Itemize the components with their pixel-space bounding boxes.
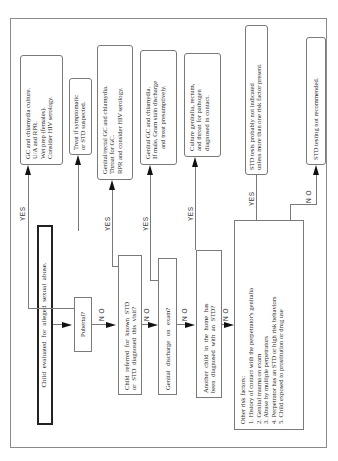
risk-factors-box: Other risk factors: 1. History of contac…	[234, 220, 304, 430]
question-text: Pubertal?	[79, 312, 86, 337]
connector	[195, 165, 196, 250]
arrow-icon	[192, 157, 198, 167]
no-label: N O	[222, 308, 229, 321]
no-label: N O	[98, 308, 105, 321]
question-text: Another child in the home has	[202, 303, 209, 393]
arrow-icon	[109, 180, 115, 190]
arrow-icon	[106, 322, 116, 328]
no-label: N O	[305, 190, 312, 203]
result-text: RPR and consider HIV serology.	[116, 51, 123, 174]
flowchart: Child evaluated for alleged sexual abuse…	[0, 0, 338, 461]
arrow-icon	[185, 322, 195, 328]
result-another-yes: Culture genitalia, rectum, and throat fo…	[184, 53, 221, 157]
result-text: and treat presumptively.	[159, 56, 166, 159]
result-text: Culture genitalia, rectum,	[188, 59, 195, 151]
connector	[78, 165, 79, 231]
result-text: STD tests probably not indicated	[248, 30, 255, 170]
result-text: Wet prep (females).	[39, 61, 46, 159]
connector	[28, 173, 29, 309]
risk-factors-list: 1. History of contact with the perpetrat…	[247, 226, 284, 424]
question-pubertal: Pubertal?	[74, 297, 92, 352]
result-pubertal-yes: GC and chlamydia culture. U/A and RPR. W…	[20, 55, 63, 165]
question-text: Genital discharge on exam?	[164, 308, 171, 390]
question-text: Child referred for known STD	[123, 302, 130, 390]
connector	[256, 175, 257, 220]
result-text: STD testing not recommended.	[312, 78, 319, 160]
connector	[316, 173, 317, 205]
risk-factor-item: 3. Abuse by multiple perpetrators	[262, 226, 269, 424]
result-text: Genital GC and chlamydia.	[144, 56, 151, 159]
risk-factor-item: 2. Genital trauma on exam	[255, 226, 262, 424]
question-another-child: Another child in the home has been diagn…	[196, 250, 222, 398]
risk-factor-item: 5. Child exposed to prostitution or drug…	[277, 226, 284, 424]
connector	[112, 188, 113, 267]
result-text: U/A and RPR.	[31, 61, 38, 159]
yes-label: YES	[19, 206, 26, 221]
connector	[290, 204, 316, 205]
arrow-icon	[75, 155, 81, 165]
no-label: N O	[143, 308, 150, 321]
result-text: Consider HIV serology.	[46, 61, 53, 159]
risk-factors-title: Other risk factors:	[239, 226, 246, 424]
result-text: Throat for GC.	[108, 51, 115, 174]
result-risk-no: STD testing not recommended.	[306, 37, 326, 165]
question-referred: Child referred for known STD or STD diag…	[118, 255, 142, 395]
risk-factor-item: 1. History of contact with the perpetrat…	[247, 226, 254, 424]
arrow-icon	[147, 165, 153, 175]
result-text: Genital/rectal GC and chlamydia.	[101, 51, 108, 174]
connector	[150, 280, 158, 281]
result-discharge-yes: Genital GC and chlamydia. If male, Gram …	[140, 50, 177, 165]
result-text: unless more than one risk factor present…	[255, 30, 262, 170]
yes-label: YES	[142, 216, 149, 231]
start-text: Child evaluated for alleged sexual abuse…	[41, 262, 48, 387]
start-box: Child evaluated for alleged sexual abuse…	[37, 225, 53, 425]
question-discharge: Genital discharge on exam?	[158, 258, 177, 395]
result-text: Treat if symptomatic	[72, 83, 79, 150]
connector	[28, 308, 74, 309]
result-text: GC and chlamydia culture.	[24, 61, 31, 159]
yes-label: YES	[248, 191, 255, 206]
result-text: or STD suspected.	[79, 83, 86, 150]
yes-label: YES	[187, 206, 194, 221]
yes-label: YES	[104, 216, 111, 231]
result-risk-yes: STD tests probably not indicated unless …	[245, 25, 268, 175]
arrow-icon	[148, 322, 158, 328]
result-text: diagnosed in contact.	[203, 59, 210, 151]
arrow-icon	[62, 322, 72, 328]
result-treat: Treat if symptomatic or STD suspected.	[69, 78, 92, 155]
arrow-icon	[224, 322, 234, 328]
result-text: If male, Gram stain discharge	[151, 56, 158, 159]
no-label: N O	[181, 308, 188, 321]
risk-factor-item: 4. Perpetrator has an STD or high risk b…	[270, 226, 277, 424]
arrow-icon	[313, 165, 319, 175]
connector	[290, 205, 291, 220]
result-text: and throat for pathogen	[195, 59, 202, 151]
question-text: been diagnosed with an STD?	[209, 303, 216, 393]
arrow-icon	[25, 165, 31, 175]
connector	[150, 173, 151, 281]
result-referred-yes: Genital/rectal GC and chlamydia. Throat …	[97, 45, 133, 180]
question-text: or STD diagnosed this visit?	[130, 302, 137, 390]
